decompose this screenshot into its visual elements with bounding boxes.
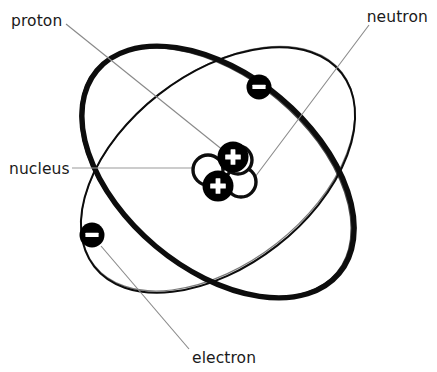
proton-plus-vertical: [231, 149, 236, 165]
label-electron: electron: [192, 349, 256, 367]
atom-diagram-svg: proton neutron nucleus electron: [0, 0, 437, 372]
atom-diagram-canvas: proton neutron nucleus electron: [0, 0, 437, 372]
label-nucleus: nucleus: [9, 160, 70, 178]
electron-particle-icon-2[interactable]: [80, 223, 105, 248]
proton-particle-icon[interactable]: [218, 142, 249, 173]
label-neutron: neutron: [367, 8, 428, 26]
proton-particle-icon-2[interactable]: [203, 171, 234, 202]
electron-minus-glyph: [252, 85, 265, 89]
label-proton: proton: [11, 12, 62, 30]
electron-particle-icon[interactable]: [247, 75, 272, 100]
proton-plus-vertical-2: [216, 178, 221, 194]
electron-minus-glyph-2: [85, 233, 98, 237]
